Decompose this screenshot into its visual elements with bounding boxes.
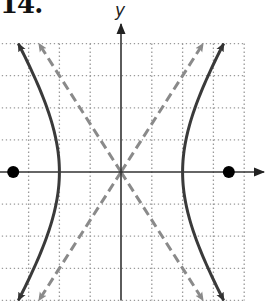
hyperbola-graph <box>0 0 266 307</box>
hyperbola-branch <box>183 172 224 300</box>
asymptote-line <box>39 172 121 300</box>
focus-point <box>223 166 235 178</box>
asymptote-line <box>39 44 121 172</box>
focus-point <box>7 166 19 178</box>
hyperbola-branch <box>183 44 224 172</box>
